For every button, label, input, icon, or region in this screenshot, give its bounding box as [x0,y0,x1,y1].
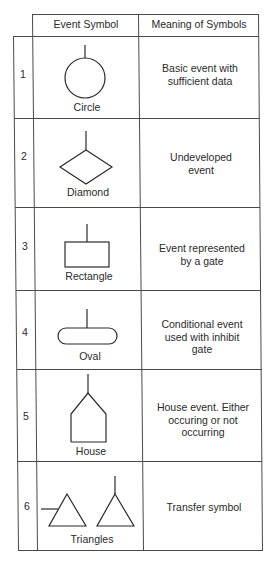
meaning-row-6: Transfer symbol [144,501,264,514]
fault-tree-event-symbols-table: Event Symbol Meaning of Symbols 1 2 3 4 … [0,0,275,563]
symbol-label-house: House [39,445,143,458]
meaning-line: Event represented [142,242,262,255]
meaning-line: Transfer symbol [144,501,264,514]
meaning-row-1: Basic event with sufficient data [140,62,260,87]
meaning-line: gate [142,343,262,356]
transfer-in-triangle-icon [41,494,86,526]
symbol-label-oval: Oval [38,350,142,363]
circle-symbol-icon [65,45,105,98]
meaning-line: occuring or not [143,414,263,427]
meaning-line: Undeveloped [141,151,261,164]
meaning-line: House event. Either [143,401,263,414]
meaning-line: Conditional event [142,318,262,331]
symbol-label-circle: Circle [35,101,139,114]
transfer-out-triangle-icon [97,476,134,526]
house-symbol-icon [71,374,106,442]
meaning-row-3: Event represented by a gate [142,242,262,267]
meaning-line: Basic event with [140,62,260,75]
meaning-line: used with inhibit [142,331,262,344]
meaning-line: by a gate [142,255,262,268]
meaning-row-2: Undeveloped event [141,151,261,176]
rectangle-symbol-icon [65,224,109,267]
oval-symbol-icon [58,309,117,344]
meaning-row-5: House event. Either occuring or not occu… [143,401,263,439]
meaning-line: occurring [143,426,263,439]
symbol-label-diamond: Diamond [36,186,140,199]
symbol-label-rectangle: Rectangle [37,270,141,283]
diamond-symbol-icon [60,131,112,184]
meaning-line: event [141,164,261,177]
meaning-line: sufficient data [140,75,260,88]
meaning-row-4: Conditional event used with inhibit gate [142,318,262,356]
symbol-label-triangles: Triangles [40,533,144,546]
